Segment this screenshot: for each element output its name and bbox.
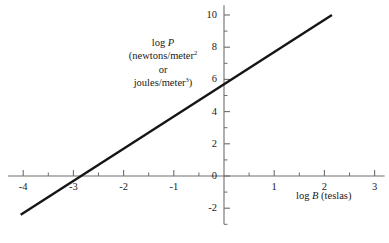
x-axis-tick-label: 1 (262, 182, 286, 193)
x-axis-tick-label: -4 (11, 182, 35, 193)
y-axis-tick-label: -2 (190, 203, 217, 214)
x-axis-tick-label: -3 (61, 182, 85, 193)
figure-container: log P (newtons/meter2 or joules/meter3) … (0, 0, 389, 243)
figure-caption (0, 233, 389, 243)
y-axis-tick-label: 0 (190, 171, 217, 182)
x-axis-tick-label: -1 (162, 182, 186, 193)
x-axis-tick-label: 2 (312, 182, 336, 193)
y-axis-tick-label: 4 (190, 107, 217, 118)
y-axis-tick-label: 6 (190, 74, 217, 85)
y-axis-tick-label: 2 (190, 139, 217, 150)
x-axis-tick-label: 3 (363, 182, 387, 193)
y-axis-tick-label: 10 (190, 10, 217, 21)
x-axis-tick-label: -2 (112, 182, 136, 193)
y-axis-tick-label: 8 (190, 42, 217, 53)
